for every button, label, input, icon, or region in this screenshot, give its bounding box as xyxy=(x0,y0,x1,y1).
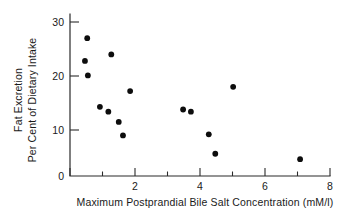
data-point xyxy=(188,109,194,115)
data-point xyxy=(120,133,126,139)
data-point xyxy=(108,52,114,58)
tick-labels: 10203002468 xyxy=(52,16,333,192)
data-point xyxy=(84,35,90,41)
x-tick-label-4: 4 xyxy=(197,180,203,192)
x-tick-label-2: 2 xyxy=(132,180,138,192)
data-point xyxy=(105,109,111,115)
data-point xyxy=(230,84,236,90)
y-axis-title-line1: Fat Excretion xyxy=(12,68,24,132)
data-point xyxy=(297,156,303,162)
data-point xyxy=(206,131,212,137)
x-tick-label-6: 6 xyxy=(262,180,268,192)
axes xyxy=(70,14,330,176)
data-points xyxy=(82,35,303,162)
data-point xyxy=(180,107,186,113)
data-point xyxy=(212,151,218,157)
y-tick-label-0: 0 xyxy=(58,170,64,182)
data-point xyxy=(127,88,133,94)
data-point xyxy=(97,104,103,110)
tick-marks xyxy=(70,22,330,176)
y-tick-label-30: 30 xyxy=(52,16,64,28)
data-point xyxy=(82,58,88,64)
data-point xyxy=(116,119,122,125)
y-tick-label-10: 10 xyxy=(52,124,64,136)
data-point xyxy=(85,73,91,79)
x-axis-title: Maximum Postprandial Bile Salt Concentra… xyxy=(77,196,334,208)
axis-spine xyxy=(70,14,330,176)
scatter-plot-figure: 10203002468 Maximum Postprandial Bile Sa… xyxy=(0,0,344,211)
plot-canvas: 10203002468 Maximum Postprandial Bile Sa… xyxy=(0,0,344,211)
y-axis-title-line2: Per Cent of Dietary Intake xyxy=(26,38,38,163)
x-tick-label-8: 8 xyxy=(327,180,333,192)
y-tick-label-20: 20 xyxy=(52,70,64,82)
